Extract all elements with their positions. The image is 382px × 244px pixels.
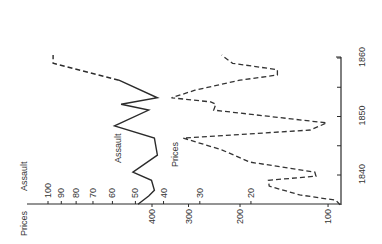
assault-tick-label: 80 (71, 188, 81, 198)
assault-tick-label: 40 (159, 188, 169, 198)
time-tick-label: 1840 (357, 164, 367, 184)
prices-line (172, 55, 341, 205)
time-tick-label: 1850 (357, 105, 367, 125)
assault-tick-label: 50 (130, 188, 140, 198)
assault-tick-label: 20 (246, 188, 256, 198)
rotated-line-chart: 2030405060708090100100200300400184018501… (0, 0, 382, 244)
prices-tick-label: 300 (184, 209, 194, 224)
prices-axis-label: Prices (19, 210, 29, 236)
assault-tick-label: 30 (195, 188, 205, 198)
series (53, 55, 340, 205)
assault-tick-label: 70 (88, 188, 98, 198)
prices-series-label: Prices (170, 141, 180, 167)
prices-tick-label: 200 (235, 209, 245, 224)
assault-line-dashed (53, 55, 119, 80)
prices-tick-label: 100 (323, 209, 333, 224)
assault-axis-label: Assault (19, 161, 29, 191)
assault-tick-label: 90 (56, 188, 66, 198)
prices-tick-label: 400 (147, 209, 157, 224)
time-tick-label: 1860 (357, 47, 367, 67)
assault-tick-label: 60 (107, 188, 117, 198)
assault-tick-label: 100 (43, 183, 53, 198)
assault-series-label: Assault (113, 133, 123, 163)
